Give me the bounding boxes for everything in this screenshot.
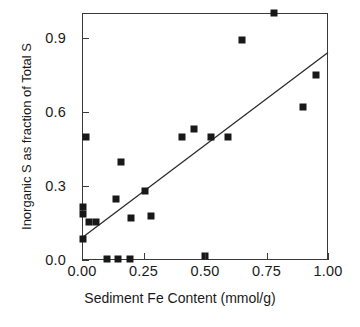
data-point (113, 196, 120, 203)
data-point (225, 133, 232, 140)
y-axis-tick-label: 0.6 (45, 104, 66, 120)
data-point (126, 255, 133, 262)
data-point (300, 103, 307, 110)
y-axis-tick (82, 186, 89, 187)
data-point (178, 133, 185, 140)
x-axis-tick-label: 0.25 (129, 263, 158, 279)
data-point (190, 126, 197, 133)
y-axis-tick-label: 0.0 (45, 252, 66, 268)
data-point (92, 218, 99, 225)
data-point (80, 203, 87, 210)
x-axis-tick (328, 253, 329, 260)
x-axis-tick (267, 253, 268, 260)
data-point (208, 133, 215, 140)
y-axis-tick (82, 260, 89, 261)
y-axis-tick (82, 112, 89, 113)
data-point (128, 215, 135, 222)
scatter-plot-figure: 0.000.250.500.751.000.00.30.60.9 Sedimen… (0, 0, 360, 327)
x-axis-tick (205, 253, 206, 260)
data-point (80, 211, 87, 218)
x-axis-tick-label: 1.00 (313, 263, 342, 279)
data-point (238, 37, 245, 44)
x-axis-tick (82, 253, 83, 260)
data-point (80, 236, 87, 243)
y-axis-tick-label: 0.9 (45, 30, 66, 46)
data-points-layer (82, 13, 328, 260)
page-bleed-text (0, 316, 360, 327)
data-point (82, 133, 89, 140)
data-point (312, 71, 319, 78)
data-point (141, 187, 148, 194)
data-point (118, 159, 125, 166)
data-point (103, 255, 110, 262)
y-axis-tick (82, 38, 89, 39)
x-axis-tick (144, 253, 145, 260)
x-axis-tick-label: 0.00 (67, 263, 96, 279)
x-axis-tick-label: 0.75 (252, 263, 281, 279)
x-axis-tick-label: 0.50 (190, 263, 219, 279)
data-point (114, 255, 121, 262)
data-point (147, 212, 154, 219)
data-point (270, 10, 277, 17)
y-axis-title: Inorganic S as fraction of Total S (18, 13, 36, 260)
x-axis-title: Sediment Fe Content (mmol/g) (0, 290, 360, 306)
y-axis-tick-label: 0.3 (45, 178, 66, 194)
